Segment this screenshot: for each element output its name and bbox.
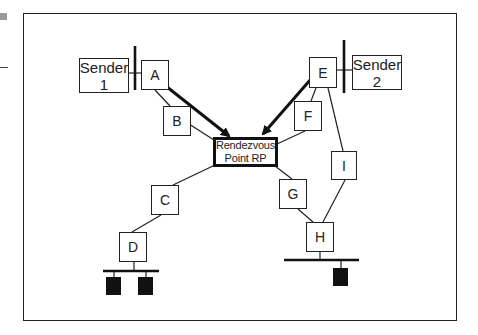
router-a: A [141,60,169,90]
router-h-label: H [315,229,325,245]
sender-1-node: Sender 1 [79,58,129,93]
router-i: I [331,151,357,180]
link-c-d [132,215,161,232]
sender-1-number: 1 [100,76,108,93]
router-f: F [294,101,322,131]
router-c: C [151,185,179,215]
link-i-h [323,180,345,222]
link-rp-c [173,165,215,185]
router-a-label: A [150,67,159,83]
router-b-label: B [172,113,181,129]
router-c-label: C [160,192,170,208]
router-i-label: I [342,158,346,174]
link-a-b [155,90,170,106]
router-g: G [279,179,307,209]
rp-label-line2: Point RP [225,152,267,165]
sender-2-label: Sender [353,56,401,73]
sender-1-label: Sender [80,59,128,76]
router-h: H [306,222,334,252]
link-e-f [311,88,316,101]
link-rp-g [275,166,292,179]
network-links [0,0,478,335]
router-d-label: D [128,239,138,255]
router-d: D [119,232,147,262]
router-f-label: F [304,108,313,124]
sender-2-node: Sender 2 [352,55,402,90]
link-e-i [328,88,343,151]
receiver-host-h1 [333,268,348,286]
receiver-host-d1 [106,277,121,295]
link-b-rp [189,124,214,140]
rendezvous-point-node: Rendezvous Point RP [213,137,278,167]
router-b: B [163,106,191,136]
receiver-host-d2 [138,277,153,295]
router-e: E [309,57,337,88]
sender-2-number: 2 [373,73,381,90]
router-e-label: E [318,65,327,81]
rp-label-line1: Rendezvous [216,139,275,152]
router-g-label: G [288,186,299,202]
link-g-h [298,209,313,222]
link-f-rp [277,131,305,144]
